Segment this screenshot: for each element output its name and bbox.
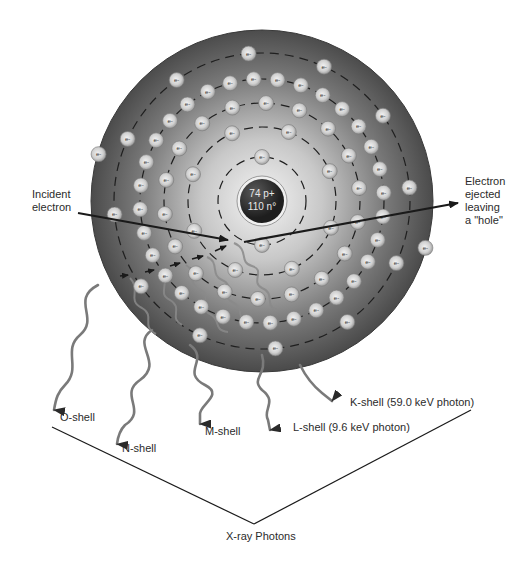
electron: e-: [239, 314, 254, 329]
svg-text:e-: e-: [327, 168, 332, 174]
electron: e-: [263, 315, 278, 330]
svg-text:e-: e-: [138, 182, 143, 188]
electron: e-: [157, 206, 172, 221]
electron: e-: [292, 103, 307, 118]
svg-text:e-: e-: [319, 276, 324, 282]
electron: e-: [372, 162, 387, 177]
electron: e-: [225, 126, 240, 141]
electron: e-: [194, 299, 209, 314]
svg-text:e-: e-: [346, 153, 351, 159]
electron: e-: [259, 96, 274, 111]
electron: e-: [137, 225, 152, 240]
svg-text:e-: e-: [144, 159, 149, 165]
svg-text:e-: e-: [286, 129, 291, 135]
electron: e-: [270, 73, 285, 88]
electron: e-: [145, 248, 160, 263]
svg-text:e-: e-: [334, 295, 339, 301]
electron: e-: [321, 121, 336, 136]
svg-text:e-: e-: [345, 319, 350, 325]
svg-text:e-: e-: [150, 252, 155, 258]
electron: e-: [329, 290, 344, 305]
svg-text:e-: e-: [351, 278, 356, 284]
svg-text:e-: e-: [369, 144, 374, 150]
svg-text:e-: e-: [193, 270, 198, 276]
svg-text:e-: e-: [325, 126, 330, 132]
electron: e-: [322, 164, 337, 179]
svg-text:e-: e-: [320, 92, 325, 98]
electron: e-: [225, 100, 240, 115]
electron: e-: [286, 311, 301, 326]
svg-text:e-: e-: [138, 283, 143, 289]
svg-text:e-: e-: [230, 105, 235, 111]
electron: e-: [284, 261, 299, 276]
electron: e-: [186, 167, 201, 182]
electron: e-: [159, 172, 174, 187]
svg-text:e-: e-: [297, 107, 302, 113]
svg-text:e-: e-: [172, 243, 177, 249]
electron: e-: [228, 262, 243, 277]
svg-text:e-: e-: [275, 77, 280, 83]
svg-text:e-: e-: [197, 332, 202, 338]
nucleus: 74 p+ 110 n°: [237, 176, 287, 226]
svg-text:e-: e-: [163, 273, 168, 279]
electron: e-: [346, 274, 361, 289]
electron: e-: [158, 268, 173, 283]
atom-diagram: e-e-e-e-e-e-e-e-e-e-e-e-e-e-e-e-e-e-e-e-…: [0, 0, 531, 570]
svg-text:e-: e-: [244, 319, 249, 325]
electron: e-: [364, 139, 379, 154]
electron: e-: [200, 84, 215, 99]
svg-text:e-: e-: [200, 120, 205, 126]
svg-text:e-: e-: [375, 237, 380, 243]
svg-text:e-: e-: [112, 211, 117, 217]
electron: e-: [133, 202, 148, 217]
electron: e-: [163, 113, 178, 128]
svg-text:e-: e-: [273, 345, 278, 351]
electron: e-: [149, 133, 164, 148]
electron: e-: [255, 150, 270, 165]
nucleus-neutrons: 110 n°: [248, 201, 276, 212]
electron: e-: [337, 246, 352, 261]
svg-text:e-: e-: [394, 260, 399, 266]
svg-text:e-: e-: [291, 316, 296, 322]
o-shell-photon-path: [54, 285, 98, 410]
electron: e-: [309, 303, 324, 318]
electron: e-: [223, 76, 238, 91]
svg-text:e-: e-: [164, 177, 169, 183]
electron: e-: [172, 141, 187, 156]
electron: e-: [174, 285, 189, 300]
electron: e-: [335, 102, 350, 117]
electron: e-: [370, 232, 385, 247]
svg-text:e-: e-: [255, 296, 260, 302]
l-shell-label: L-shell (9.6 keV photon): [293, 421, 410, 434]
electron: e-: [188, 266, 203, 281]
svg-text:e-: e-: [177, 145, 182, 151]
svg-text:e-: e-: [365, 259, 370, 265]
svg-text:e-: e-: [259, 154, 264, 160]
svg-text:e-: e-: [356, 123, 361, 129]
electron: e-: [418, 240, 433, 255]
electron: e-: [376, 185, 391, 200]
svg-text:e-: e-: [220, 314, 225, 320]
svg-text:e-: e-: [263, 100, 268, 106]
electron: e-: [134, 279, 149, 294]
electron: e-: [315, 88, 330, 103]
xray-photons-label: X-ray Photons: [226, 530, 296, 543]
electron: e-: [314, 271, 329, 286]
electron: e-: [180, 97, 195, 112]
svg-text:e-: e-: [259, 242, 264, 248]
svg-text:e-: e-: [246, 51, 251, 57]
electron: e-: [241, 46, 256, 61]
m-shell-label: M-shell: [205, 425, 240, 438]
svg-text:e-: e-: [314, 307, 319, 313]
electron: e-: [360, 254, 375, 269]
svg-text:e-: e-: [142, 230, 147, 236]
electron: e-: [281, 125, 296, 140]
svg-text:e-: e-: [321, 64, 326, 70]
svg-text:e-: e-: [190, 171, 195, 177]
electron: e-: [195, 116, 210, 131]
electron: e-: [268, 341, 283, 356]
electron: e-: [352, 181, 367, 196]
svg-text:e-: e-: [298, 82, 303, 88]
electron: e-: [134, 178, 149, 193]
svg-text:e-: e-: [289, 266, 294, 272]
